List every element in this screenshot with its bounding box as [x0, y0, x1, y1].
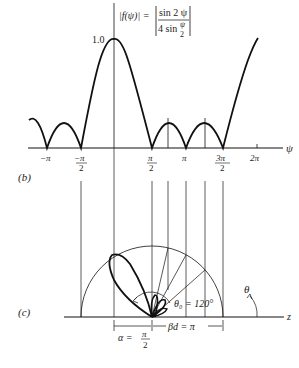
svg-text:2: 2 — [79, 163, 84, 173]
peak-label: 1.0 — [92, 34, 105, 45]
svg-text:−π: −π — [40, 153, 51, 163]
beta-d-label: βd = π — [167, 321, 196, 332]
polar-plot — [64, 246, 284, 331]
svg-text:2π: 2π — [250, 153, 260, 163]
svg-text:ψ: ψ — [180, 20, 186, 29]
projection-lines — [81, 148, 223, 317]
svg-text:3π: 3π — [215, 153, 226, 163]
panel-c-label: (c) — [18, 306, 31, 319]
array-factor-diagram: |f(ψ)| = sin 2 ψ 4 sin ψ 2 1.0 ψ −π −π 2… — [0, 0, 299, 368]
z-axis-label: z — [286, 311, 291, 322]
svg-text:4 sin: 4 sin — [158, 23, 177, 34]
svg-text:|f(ψ)| =: |f(ψ)| = — [119, 10, 149, 22]
svg-text:π: π — [148, 153, 153, 163]
svg-text:π: π — [142, 329, 147, 339]
svg-text:π: π — [182, 153, 187, 163]
psi-axis-label: ψ — [286, 142, 293, 154]
panel-b-label: (b) — [18, 171, 31, 184]
theta-label: θ — [244, 283, 250, 295]
svg-text:2: 2 — [149, 163, 154, 173]
svg-text:2: 2 — [220, 163, 225, 173]
alpha-label: α = — [118, 332, 133, 343]
tick-labels: −π −π 2 π 2 π 3π 2 2π — [40, 153, 260, 173]
svg-text:2: 2 — [180, 30, 184, 39]
main-lobe — [109, 254, 152, 317]
array-factor-plot — [28, 3, 283, 148]
svg-text:−π: −π — [74, 153, 85, 163]
array-factor-curve — [29, 38, 258, 148]
svg-text:2: 2 — [143, 340, 148, 350]
svg-text:sin 2 ψ: sin 2 ψ — [159, 7, 188, 18]
equation: |f(ψ)| = sin 2 ψ 4 sin ψ 2 — [119, 6, 190, 39]
theta0-label: θ₀ = 120° — [174, 298, 213, 309]
